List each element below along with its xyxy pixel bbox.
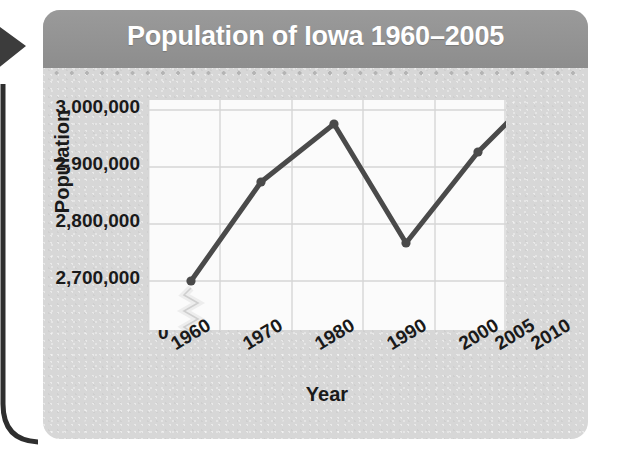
data-point-1960 xyxy=(186,276,195,285)
x-axis-title: Year xyxy=(148,383,506,406)
data-point-1970 xyxy=(256,177,265,186)
y-tick-label: 2,800,000 xyxy=(0,210,140,232)
data-point-1990 xyxy=(401,238,410,247)
data-point-2000 xyxy=(473,147,482,156)
y-tick-label: 2,700,000 xyxy=(0,267,140,289)
chart-page: Population of Iowa 1960–2005 Population … xyxy=(0,0,620,451)
plot-area xyxy=(148,100,506,330)
data-point-1980 xyxy=(329,119,338,128)
y-tick-label: 3,000,000 xyxy=(0,96,140,118)
plot-canvas xyxy=(148,100,506,330)
y-tick-label: 2,900,000 xyxy=(0,153,140,175)
plot-background xyxy=(148,100,506,330)
